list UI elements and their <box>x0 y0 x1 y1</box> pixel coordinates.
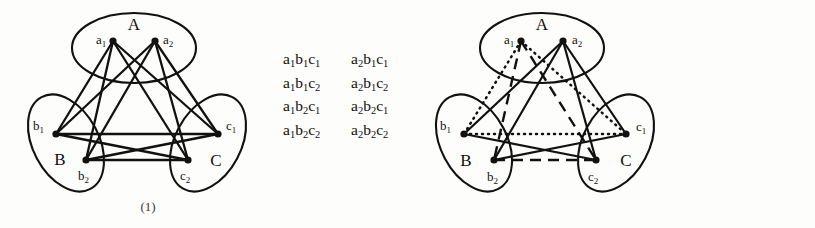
vertex-c2[interactable] <box>592 156 599 163</box>
vertex-a1[interactable] <box>109 37 116 44</box>
triangle-a1b1c1-dotted <box>464 41 626 134</box>
part-ellipse-B <box>420 82 527 200</box>
figure-container: A B C a1 a2 b1 b2 c1 c2 <box>0 0 815 228</box>
edge-b1-c2 <box>56 134 188 160</box>
part-label-B: B <box>54 150 65 169</box>
vertex-label-a2: a2 <box>572 32 582 49</box>
vertex-b1[interactable] <box>460 130 467 137</box>
panel-caption-1: (1) <box>118 199 178 215</box>
vertex-label-c2: c2 <box>180 168 190 185</box>
vertex-label-b1: b1 <box>440 118 451 135</box>
vertex-c2[interactable] <box>184 156 191 163</box>
vertex-label-b1: b1 <box>33 118 44 135</box>
vertex-label-b2: b2 <box>78 168 89 185</box>
part-label-C: C <box>210 151 221 170</box>
triple-item: a1b2c2 <box>283 119 351 143</box>
edge-b1-c2 <box>464 134 596 160</box>
figure-panel-1: A B C a1 a2 b1 b2 c1 c2 <box>0 0 408 228</box>
vertex-label-c1: c1 <box>226 118 236 135</box>
part-label-A: A <box>536 15 549 34</box>
graph-diagram-1: A B C a1 a2 b1 b2 c1 c2 <box>0 0 280 200</box>
part-label-C: C <box>620 151 631 170</box>
edge-b2-c1 <box>86 134 218 160</box>
edge-a2-b1 <box>464 41 563 134</box>
edge-b2-c1 <box>494 134 626 160</box>
vertex-label-c2: c2 <box>588 169 598 186</box>
vertex-label-b2: b2 <box>487 169 498 186</box>
triple-item: a2b1c1 <box>351 48 388 72</box>
part-label-A: A <box>128 15 141 34</box>
edge-a2-b2 <box>494 41 563 160</box>
triple-item: a1b2c1 <box>283 95 351 119</box>
triple-list-1: a1b1c1 a2b1c1 a1b1c2 a2b1c2 a1b2c1 a2b2c… <box>283 48 388 142</box>
part-label-B: B <box>460 151 471 170</box>
vertex-label-a1: a1 <box>96 32 106 49</box>
triple-item: a2b1c2 <box>351 72 388 96</box>
triple-item: a1b1c1 <box>283 48 351 72</box>
triangle-a2b2c1-solid <box>494 41 626 160</box>
vertex-c1[interactable] <box>214 130 221 137</box>
triple-row: a1b1c1 a2b1c1 <box>283 48 388 72</box>
vertex-label-a2: a2 <box>163 32 173 49</box>
vertex-b2[interactable] <box>490 156 497 163</box>
triple-row: a1b2c1 a2b2c1 <box>283 95 388 119</box>
vertex-a1[interactable] <box>517 37 524 44</box>
vertex-label-a1: a1 <box>504 32 514 49</box>
triple-item: a1b1c2 <box>283 72 351 96</box>
vertex-a2[interactable] <box>559 37 566 44</box>
edge-a2-c1 <box>563 41 626 134</box>
part-ellipse-B <box>12 82 119 200</box>
triple-item: a2b2c1 <box>351 95 388 119</box>
vertex-c1[interactable] <box>622 130 629 137</box>
figure-panel-2: A B C a1 a2 b1 b2 c1 c2 <box>408 0 815 228</box>
triple-row: a1b2c2 a2b2c2 <box>283 119 388 143</box>
triple-item: a2b2c2 <box>351 119 388 143</box>
graph-diagram-2: A B C a1 a2 b1 b2 c1 c2 <box>408 0 688 200</box>
vertex-b1[interactable] <box>52 130 59 137</box>
vertex-b2[interactable] <box>82 156 89 163</box>
vertex-label-c1: c1 <box>636 119 646 136</box>
triple-row: a1b1c2 a2b1c2 <box>283 72 388 96</box>
vertex-a2[interactable] <box>151 37 158 44</box>
